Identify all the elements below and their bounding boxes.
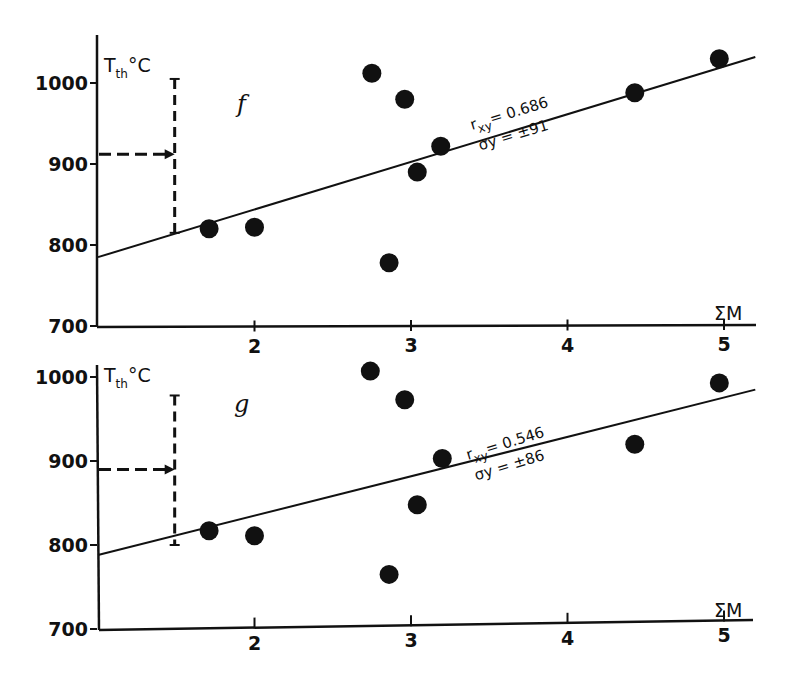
x-tick-label: 5 bbox=[717, 624, 730, 646]
error-bar bbox=[99, 395, 180, 545]
data-point bbox=[431, 137, 450, 156]
panel-label: f bbox=[235, 90, 250, 118]
y-tick-label: 700 bbox=[48, 315, 88, 337]
data-point bbox=[710, 373, 729, 392]
x-tick-label: 2 bbox=[248, 632, 261, 654]
y-tick-label: 1000 bbox=[35, 72, 88, 94]
data-point bbox=[408, 163, 427, 182]
error-bar bbox=[99, 79, 180, 233]
data-point bbox=[200, 521, 219, 540]
stats-annotation: rxy= 0.686 σy = ±91 bbox=[468, 93, 557, 155]
data-points bbox=[200, 49, 729, 272]
y-ticks: 7008009001000 bbox=[35, 72, 97, 337]
x-tick-label: 3 bbox=[404, 629, 417, 651]
data-point bbox=[408, 495, 427, 514]
x-axis bbox=[99, 620, 753, 630]
data-point bbox=[625, 83, 644, 102]
y-tick-label: 900 bbox=[48, 153, 88, 175]
regression-line bbox=[98, 390, 755, 555]
y-axis bbox=[97, 365, 99, 630]
x-tick-label: 3 bbox=[404, 334, 417, 356]
chart-canvas: 7008009001000 2345 Tth°C ΣM f rxy= 0.686… bbox=[0, 0, 792, 690]
x-tick-label: 4 bbox=[561, 627, 574, 649]
data-point bbox=[710, 49, 729, 68]
data-point bbox=[625, 435, 644, 454]
x-axis-title: ΣM bbox=[714, 302, 742, 324]
data-point bbox=[395, 90, 414, 109]
x-tick-label: 4 bbox=[561, 334, 574, 356]
x-axis-title: ΣM bbox=[714, 599, 742, 621]
data-point bbox=[245, 526, 264, 545]
y-tick-label: 800 bbox=[48, 234, 88, 256]
stats-annotation: rxy= 0.546 σy = ±86 bbox=[464, 423, 553, 485]
x-tick-label: 2 bbox=[248, 335, 261, 357]
y-axis-title: Tth°C bbox=[103, 364, 151, 391]
x-ticks: 2345 bbox=[248, 610, 731, 653]
x-tick-label: 5 bbox=[717, 333, 730, 355]
panel-label: g bbox=[234, 390, 249, 418]
x-axis bbox=[97, 325, 756, 327]
data-point bbox=[361, 362, 380, 381]
y-ticks: 7008009001000 bbox=[35, 366, 97, 640]
data-point bbox=[380, 253, 399, 272]
data-point bbox=[245, 218, 264, 237]
y-tick-label: 800 bbox=[48, 534, 88, 556]
panel-f: 7008009001000 2345 Tth°C ΣM f rxy= 0.686… bbox=[35, 35, 756, 357]
y-tick-label: 1000 bbox=[35, 366, 88, 388]
y-tick-label: 700 bbox=[48, 618, 88, 640]
y-axis-title: Tth°C bbox=[103, 54, 151, 81]
data-point bbox=[362, 64, 381, 83]
y-tick-label: 900 bbox=[48, 450, 88, 472]
data-point bbox=[395, 390, 414, 409]
panel-g: 7008009001000 2345 Tth°C ΣM g rxy= 0.546… bbox=[35, 362, 755, 654]
data-point bbox=[380, 565, 399, 584]
data-points bbox=[200, 362, 729, 584]
regression-line bbox=[98, 57, 755, 257]
data-point bbox=[433, 449, 452, 468]
data-point bbox=[200, 219, 219, 238]
